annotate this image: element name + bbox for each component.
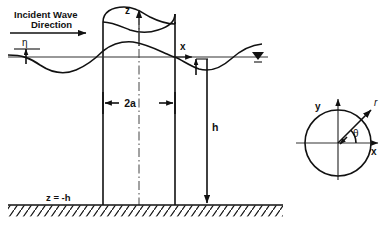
seabed-label: z = -h [46, 192, 71, 203]
plan-x-axis-label: x [371, 146, 377, 157]
depth-label: h [212, 121, 218, 133]
plan-y-axis-label: y [315, 101, 321, 112]
theta-label: θ [353, 128, 359, 139]
elevation-view [8, 7, 283, 216]
radial-label: r [374, 97, 378, 108]
incident-wave-label-line2: Direction [31, 19, 72, 30]
diagram-canvas: Incident Wave Direction η z x 2a h z = -… [0, 0, 391, 226]
depth-dimension [196, 59, 208, 203]
wave-cylinder-diagram: Incident Wave Direction η z x 2a h z = -… [0, 0, 391, 226]
plan-view [296, 99, 378, 180]
x-axis-label: x [180, 41, 186, 52]
diameter-label: 2a [124, 97, 136, 109]
z-axis-label: z [125, 5, 130, 16]
eta-label: η [22, 37, 28, 48]
seabed [8, 205, 283, 216]
